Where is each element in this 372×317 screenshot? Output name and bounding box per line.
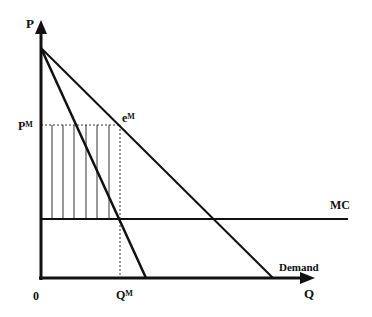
x-axis-arrow-icon: [300, 272, 315, 284]
monopoly-diagram: P Q 0 PM eM QM MC Demand: [0, 0, 372, 317]
y-axis-arrow-icon: [35, 20, 47, 34]
equilibrium-label: eM: [122, 111, 135, 125]
y-axis-label: P: [26, 16, 34, 31]
qm-label: QM: [116, 288, 133, 302]
marginal-revenue-curve: [41, 48, 146, 278]
demand-curve: [41, 48, 273, 278]
pm-label: PM: [18, 119, 33, 133]
origin-label: 0: [33, 289, 39, 303]
hatched-region: [52, 125, 109, 219]
demand-label: Demand: [279, 261, 319, 273]
x-axis-label: Q: [304, 286, 314, 301]
mc-label: MC: [330, 198, 350, 212]
